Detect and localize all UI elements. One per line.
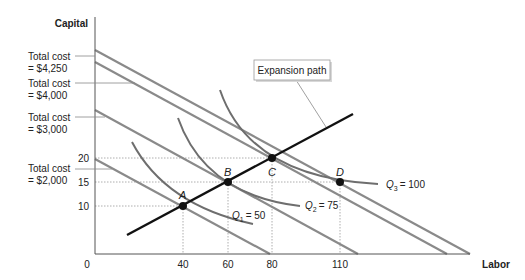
cost-3000-line2: = $3,000 <box>28 124 68 135</box>
y-tick-15: 15 <box>78 177 90 188</box>
x-tick-110: 110 <box>332 259 348 270</box>
cost-3000-line1: Total cost <box>28 112 70 123</box>
isoquant-q3-label: Q3= 100 <box>386 179 425 192</box>
x-tick-60: 60 <box>222 259 234 270</box>
cost-2000-line1: Total cost <box>28 163 70 174</box>
x-tick-40: 40 <box>177 259 189 270</box>
point-c <box>268 154 276 162</box>
expansion-path-leader <box>296 80 326 127</box>
x-axis-title: Labor <box>482 259 510 270</box>
isoquant-q3 <box>220 90 378 184</box>
y-tick-10: 10 <box>78 201 90 212</box>
point-a <box>179 202 187 210</box>
isoquants <box>132 90 378 224</box>
cost-4000-line1: Total cost <box>28 78 70 89</box>
point-c-label: C <box>268 166 276 178</box>
cost-4000-line2: = $4,000 <box>28 90 68 101</box>
cost-labels: Total cost = $4,250 Total cost = $4,000 … <box>28 51 70 186</box>
origin-label: 0 <box>84 259 90 270</box>
chart: Expansion path A B C D Q1= 50 Q2= 75 Q3=… <box>0 0 525 280</box>
point-a-label: A <box>178 189 186 201</box>
point-b <box>224 178 232 186</box>
guide-lines <box>95 158 340 254</box>
expansion-path-label: Expansion path <box>258 65 327 76</box>
cost-2000-line2: = $2,000 <box>28 175 68 186</box>
point-d-label: D <box>336 166 344 178</box>
cost-4250-line1: Total cost <box>28 51 70 62</box>
point-d <box>336 178 344 186</box>
y-tick-20: 20 <box>78 153 90 164</box>
expansion-path-callout: Expansion path <box>254 60 332 127</box>
cost-4250-line2: = $4,250 <box>28 63 68 74</box>
y-axis-title: Capital <box>55 18 89 29</box>
point-b-label: B <box>224 166 231 178</box>
isoquant-q2-label: Q2= 75 <box>305 200 339 213</box>
x-tick-80: 80 <box>266 259 278 270</box>
axes <box>95 17 470 254</box>
